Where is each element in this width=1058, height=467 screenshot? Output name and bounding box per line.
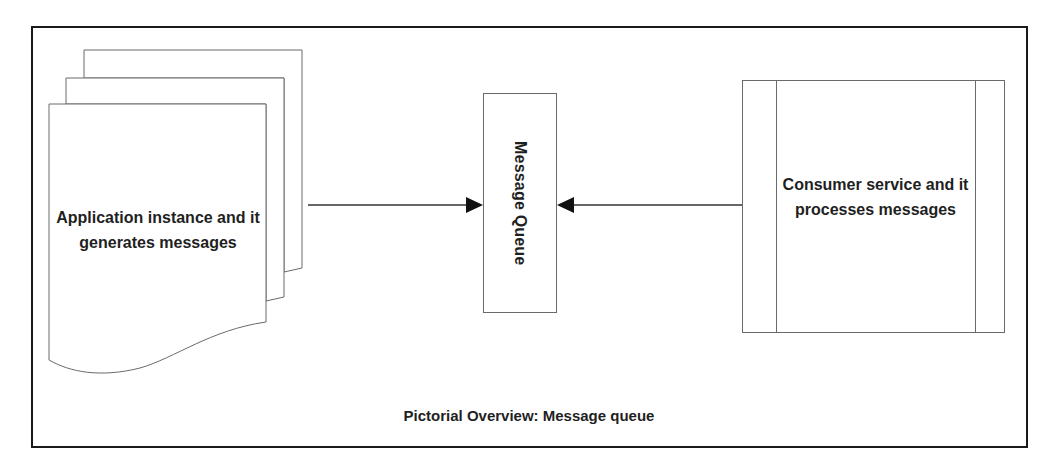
producer-to-queue-arrow	[308, 197, 483, 213]
message-queue-label-wrap: Message Queue	[483, 93, 557, 313]
message-queue-label: Message Queue	[511, 141, 529, 265]
producer-label: Application instance and it generates me…	[50, 205, 266, 255]
consumer-label: Consumer service and it processes messag…	[776, 172, 975, 222]
diagram-caption: Pictorial Overview: Message queue	[0, 407, 1058, 424]
